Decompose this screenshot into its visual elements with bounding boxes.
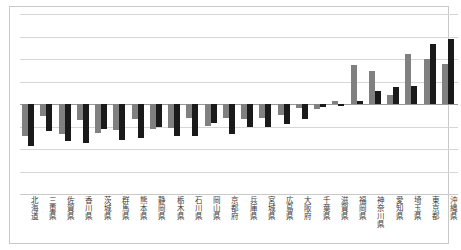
bar-group	[385, 14, 403, 194]
x-tick-label: 東京都	[423, 196, 439, 220]
x-tick-label: 大阪府	[295, 196, 311, 220]
bar-series-b	[174, 104, 180, 136]
bar-group	[312, 14, 330, 194]
x-tick-label: 宮城県	[258, 196, 274, 220]
x-tick-label: 栃木県	[167, 196, 183, 220]
x-tick-label: 熊本県	[131, 196, 147, 220]
bar-group	[349, 14, 367, 194]
x-tick-label: 滋賀県	[331, 196, 347, 220]
x-tick-label: 北海道	[21, 196, 37, 220]
bar-group	[367, 14, 385, 194]
bar-group	[166, 14, 184, 194]
x-tick-label: 愛知県	[386, 196, 402, 220]
x-tick-label: 埼玉県	[404, 196, 420, 220]
bar-series-b	[211, 104, 217, 123]
bar-group	[330, 14, 348, 194]
bar-series-b	[265, 104, 271, 127]
bar-group	[422, 14, 440, 194]
bar-series-b	[375, 91, 381, 105]
bar-group	[203, 14, 221, 194]
bar-group	[257, 14, 275, 194]
x-tick-label: 三重県	[39, 196, 55, 220]
x-tick-label: 香川県	[76, 196, 92, 220]
bar-group	[148, 14, 166, 194]
bar-series-b	[138, 104, 144, 138]
bar-series-b	[46, 104, 52, 131]
bar-series-b	[302, 104, 308, 119]
x-tick-label: 静岡県	[149, 196, 165, 220]
bar-group	[75, 14, 93, 194]
bar-series-b	[247, 104, 253, 127]
bar-series-container	[20, 14, 458, 194]
chart-frame: 北海道三重県佐賀県香川県茨城県群馬県熊本県静岡県栃木県石川県岡山県京都府兵庫県宮…	[9, 6, 449, 244]
bar-group	[57, 14, 75, 194]
x-tick-label: 石川県	[185, 196, 201, 220]
x-tick-label: 福岡県	[350, 196, 366, 220]
bar-series-b	[65, 104, 71, 141]
bar-series-b	[393, 87, 399, 104]
bar-group	[184, 14, 202, 194]
bar-group	[111, 14, 129, 194]
bar-series-b	[83, 104, 89, 143]
bar-series-b	[284, 104, 290, 124]
bar-series-b	[156, 104, 162, 127]
bar-series-b	[338, 104, 344, 106]
x-tick-label: 群馬県	[112, 196, 128, 220]
bar-group	[294, 14, 312, 194]
bar-series-b	[101, 104, 107, 129]
x-axis-tick-labels: 北海道三重県佐賀県香川県茨城県群馬県熊本県静岡県栃木県石川県岡山県京都府兵庫県宮…	[20, 196, 458, 250]
plot-area	[20, 14, 458, 194]
bar-group	[221, 14, 239, 194]
bar-group	[93, 14, 111, 194]
axis-label-separator	[20, 194, 458, 195]
x-tick-label: 広島県	[277, 196, 293, 220]
bar-group	[130, 14, 148, 194]
bar-series-b	[320, 104, 326, 107]
x-tick-label: 岡山県	[204, 196, 220, 220]
x-tick-label: 兵庫県	[240, 196, 256, 220]
bar-series-b	[411, 86, 417, 104]
bar-group	[38, 14, 56, 194]
bar-group	[403, 14, 421, 194]
bar-series-b	[229, 104, 235, 134]
bar-group	[276, 14, 294, 194]
bar-series-b	[28, 104, 34, 146]
bar-series-b	[357, 101, 363, 104]
bar-series-b	[430, 44, 436, 104]
chart-screenshot: 北海道三重県佐賀県香川県茨城県群馬県熊本県静岡県栃木県石川県岡山県京都府兵庫県宮…	[0, 0, 461, 250]
x-tick-label: 茨城県	[94, 196, 110, 220]
x-tick-label: 神奈川県	[368, 196, 384, 228]
x-tick-label: 京都府	[222, 196, 238, 220]
x-tick-label: 沖縄県	[441, 196, 457, 220]
bar-group	[20, 14, 38, 194]
bar-series-b	[192, 104, 198, 136]
bar-series-b	[448, 39, 454, 104]
bar-series-a	[351, 65, 357, 104]
x-tick-label: 千葉県	[313, 196, 329, 220]
bar-group	[239, 14, 257, 194]
bar-group	[440, 14, 458, 194]
bar-series-b	[119, 104, 125, 140]
x-tick-label: 佐賀県	[58, 196, 74, 220]
